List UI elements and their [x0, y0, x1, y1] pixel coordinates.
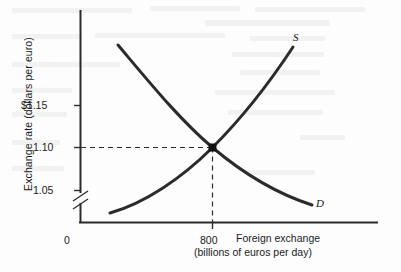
y-tick-label-110: 1.10: [33, 141, 53, 153]
x-axis-title: Foreign exchange (billions of euros per …: [236, 231, 401, 259]
exchange-rate-supply-demand-figure: Exchange rate (dollars per euro) Foreign…: [0, 0, 401, 272]
x-axis-title-line2: (billions of euros per day): [194, 245, 401, 259]
supply-curve: [110, 47, 293, 213]
x-tick-label-0: 0: [64, 234, 70, 246]
x-axis-title-line1: Foreign exchange: [236, 232, 320, 244]
y-tick-label-105: 1.05: [33, 184, 53, 196]
demand-curve-label: D: [316, 197, 324, 209]
equilibrium-point-marker: [209, 144, 217, 152]
demand-curve: [118, 45, 312, 205]
y-tick-label-115: $1.15: [21, 99, 47, 111]
supply-curve-label: S: [293, 31, 299, 43]
x-tick-label-800: 800: [200, 234, 218, 246]
